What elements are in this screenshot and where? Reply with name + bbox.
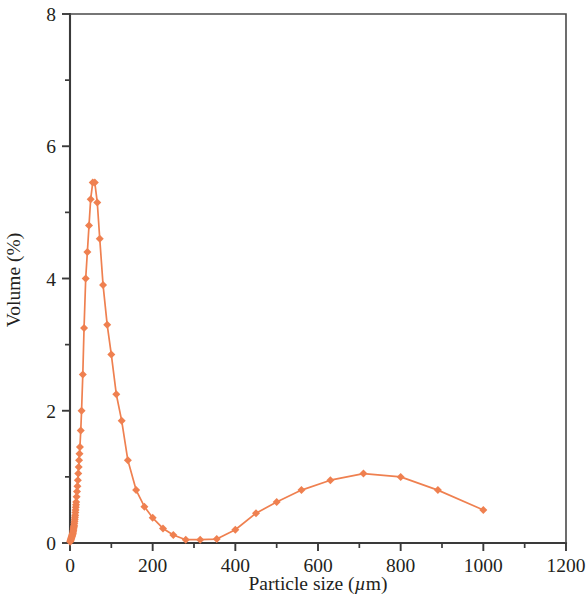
x-tick-label: 400 xyxy=(221,555,250,576)
x-axis-title: Particle size (µm) xyxy=(248,573,387,595)
y-tick-label: 0 xyxy=(46,533,56,554)
y-tick-label: 2 xyxy=(46,401,56,422)
x-tick-label: 1000 xyxy=(464,555,503,576)
x-tick-label: 0 xyxy=(65,555,75,576)
y-tick-label: 6 xyxy=(46,136,56,157)
x-tick-label: 800 xyxy=(386,555,415,576)
y-axis-title: Volume (%) xyxy=(3,233,25,327)
particle-size-volume-chart: 02004006008001000120002468 Particle size… xyxy=(0,0,587,597)
x-tick-label: 200 xyxy=(138,555,167,576)
chart-background xyxy=(0,0,587,597)
y-tick-label: 8 xyxy=(46,4,56,25)
chart-canvas: 02004006008001000120002468 Particle size… xyxy=(0,0,587,597)
y-tick-label: 4 xyxy=(46,269,56,290)
x-tick-label: 1200 xyxy=(547,555,586,576)
